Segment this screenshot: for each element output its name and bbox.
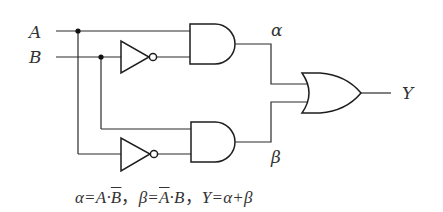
- output-y-label: Y: [402, 83, 415, 103]
- formula-a-bar: A: [159, 188, 170, 207]
- or-gate: [302, 73, 361, 113]
- logic-circuit-diagram: A B α β: [0, 0, 443, 212]
- formula-y-expr: Y=α+β: [202, 188, 253, 207]
- junction-dot-b: [98, 54, 103, 59]
- formula-alpha-lhs: α=A·: [75, 188, 111, 207]
- formula-b-bar: B: [111, 188, 122, 207]
- formula-beta-lhs: β=: [139, 188, 159, 207]
- not-gate-2: [121, 138, 191, 171]
- and-gate-1: [190, 24, 235, 64]
- formula-separator-1: ，: [121, 188, 138, 207]
- not-gate-1: [121, 41, 190, 73]
- alpha-label: α: [271, 20, 283, 40]
- wire-alpha: [235, 44, 309, 84]
- junction-dot-a: [75, 28, 80, 33]
- input-b-label: B: [28, 47, 42, 67]
- boolean-formula: α=A·B，β=A·B，Y=α+β: [75, 183, 345, 208]
- and-gate-2: [191, 122, 235, 162]
- beta-label: β: [270, 147, 281, 167]
- formula-beta-rhs: ·B: [170, 188, 185, 207]
- formula-separator-2: ，: [185, 188, 202, 207]
- input-a-label: A: [27, 22, 41, 42]
- wire-beta: [235, 102, 309, 142]
